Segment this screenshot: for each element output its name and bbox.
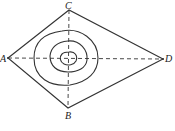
contour-outer (34, 30, 98, 85)
kite-outline (8, 10, 163, 108)
label-b: B (65, 110, 71, 121)
diagonal-cb (68, 10, 69, 108)
vertex-a-dot (7, 57, 9, 59)
label-a: A (0, 53, 7, 64)
vertex-d-dot (162, 58, 164, 60)
label-d: D (164, 53, 173, 64)
kite-diagram: C A D B (0, 0, 175, 131)
label-c: C (65, 0, 72, 11)
diagonal-ad (8, 58, 163, 59)
